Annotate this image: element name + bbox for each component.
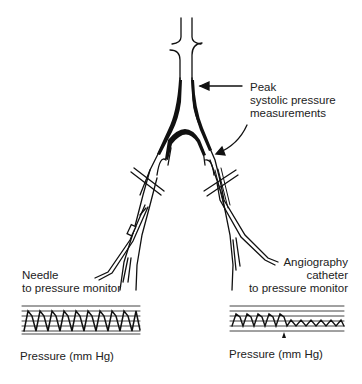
left-pressure-trace [22, 306, 140, 334]
needle-label-line1: Needle [22, 269, 121, 282]
catheter-label-line1: Angiography [249, 256, 348, 269]
needle-label-line2: to pressure monitor [22, 282, 121, 295]
vessel-diagram [0, 0, 362, 384]
bifurcation-inner [157, 148, 214, 175]
peak-label-line1: Peak [250, 81, 336, 94]
peak-label-line3: measurements [250, 107, 336, 120]
aorta-top [170, 18, 202, 80]
left-trace-caption: Pressure (mm Hg) [20, 350, 114, 363]
right-pressure-trace [230, 306, 344, 338]
plaque [157, 80, 212, 160]
peak-label: Peak systolic pressure measurements [250, 81, 336, 120]
catheter-label-line3: to pressure monitor [249, 282, 348, 295]
peak-label-line2: systolic pressure [250, 94, 336, 107]
catheter-label: Angiography catheter to pressure monitor [249, 256, 348, 295]
catheter-label-line2: catheter [249, 269, 348, 282]
left-clamp [131, 168, 164, 195]
right-trace-caption: Pressure (mm Hg) [229, 348, 323, 361]
needle-label: Needle to pressure monitor [22, 269, 121, 295]
